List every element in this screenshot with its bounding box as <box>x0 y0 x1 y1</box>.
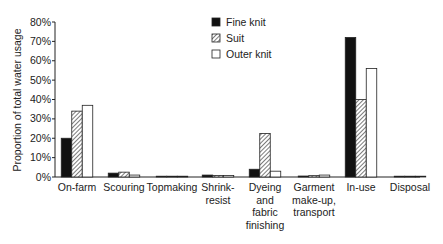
x-tick-label: Garmentmake-up,transport <box>292 181 336 218</box>
bar <box>394 176 405 177</box>
y-tick-label: 0% <box>36 171 51 183</box>
bar <box>356 100 367 178</box>
bar-group <box>108 172 140 177</box>
bar <box>309 176 320 177</box>
x-tick-label: Dyeingandfabricfinishing <box>246 181 285 231</box>
bar <box>415 176 426 177</box>
bar-group <box>202 175 234 177</box>
y-tick-label: 50% <box>30 74 51 86</box>
y-tick-label: 40% <box>30 93 51 105</box>
bar <box>61 138 72 177</box>
bar-group <box>394 176 426 177</box>
y-tick-label: 60% <box>30 54 51 66</box>
legend-swatch <box>212 50 220 58</box>
x-tick-label: In-use <box>346 181 375 193</box>
bar <box>249 169 260 177</box>
bar-group <box>298 175 330 177</box>
y-tick-label: 20% <box>30 132 51 144</box>
legend: Fine knitSuitOuter knit <box>212 16 272 60</box>
bar <box>202 175 213 177</box>
y-tick-label: 10% <box>30 151 51 163</box>
y-axis-label: Proportion of total water usage <box>11 28 23 171</box>
bar-group <box>61 105 93 177</box>
x-tick-label: On-farm <box>58 181 97 193</box>
x-tick-label: Topmaking <box>147 181 198 193</box>
bar <box>260 133 271 177</box>
bar <box>223 175 234 177</box>
bar <box>156 176 167 177</box>
bar-group <box>345 38 377 178</box>
bar <box>119 172 130 177</box>
y-tick-label: 30% <box>30 112 51 124</box>
bar <box>213 175 224 177</box>
bar <box>167 176 178 177</box>
legend-label: Outer knit <box>226 48 272 60</box>
legend-label: Suit <box>226 32 244 44</box>
y-tick-label: 80% <box>30 16 51 28</box>
x-axis-labels: On-farmScouringTopmakingShrink-resistDye… <box>58 181 430 231</box>
bar <box>270 171 281 177</box>
bar <box>82 105 93 177</box>
bar-group <box>249 133 281 177</box>
legend-swatch <box>212 34 220 42</box>
bar <box>345 38 356 178</box>
bar <box>405 176 416 177</box>
water-usage-bar-chart: 0%10%20%30%40%50%60%70%80% Proportion of… <box>0 0 443 244</box>
x-tick-label: Shrink-resist <box>201 181 235 206</box>
bar-group <box>156 176 188 177</box>
legend-swatch <box>212 18 220 26</box>
bar <box>319 175 330 177</box>
bar <box>72 111 83 177</box>
legend-label: Fine knit <box>226 16 266 28</box>
x-tick-label: Disposal <box>390 181 430 193</box>
x-tick-label: Scouring <box>103 181 145 193</box>
bar <box>177 176 188 177</box>
bar <box>298 176 309 177</box>
bar <box>108 173 119 177</box>
y-tick-label: 70% <box>30 35 51 47</box>
bar <box>366 69 377 178</box>
bar <box>129 175 140 177</box>
